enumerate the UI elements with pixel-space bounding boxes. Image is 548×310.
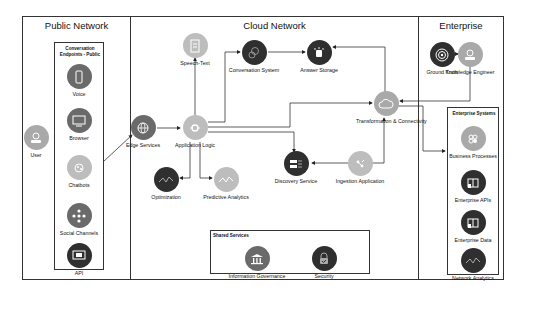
answer-storage-label: Answer Storage [289, 67, 349, 73]
enterprise-apis-node[interactable]: Enterprise APIs [443, 170, 503, 203]
api-node[interactable]: API [49, 243, 109, 276]
conversation-system-node[interactable]: Conversation System [224, 40, 284, 73]
analytics-icon [461, 248, 486, 273]
security-label: Security [294, 273, 354, 279]
network-analytics-label: Network Analytics [443, 275, 503, 281]
speech-text-node[interactable]: Speech-Text [165, 33, 225, 66]
api-icon [67, 243, 92, 268]
optimization-node[interactable]: Optimization [136, 167, 196, 200]
user-icon [24, 125, 49, 150]
user-icon [458, 42, 483, 67]
knowledge-engineer-label: Knowledge Engineer [440, 69, 500, 75]
application-logic-node[interactable]: Application Logic [165, 115, 225, 148]
browser-node[interactable]: Browser [49, 108, 109, 141]
browser-label: Browser [49, 135, 109, 141]
chatbots-label: Chatbots [49, 182, 109, 188]
search-icon [284, 151, 309, 176]
process-icon [461, 126, 486, 151]
conversation-icon [242, 40, 267, 65]
ingestion-application-node[interactable]: Ingestion Application [330, 151, 390, 184]
network-icon [67, 203, 92, 228]
information-governance-node[interactable]: Information Governance [227, 246, 287, 279]
enterprise-apis-label: Enterprise APIs [443, 197, 503, 203]
business-processes-node[interactable]: Business Processes [443, 126, 503, 159]
analytics-icon [214, 167, 239, 192]
conversation-system-label: Conversation System [224, 67, 284, 73]
application-logic-label: Application Logic [165, 142, 225, 148]
enterprise-data-node[interactable]: Enterprise Data [443, 210, 503, 243]
discovery-service-node[interactable]: Discovery Service [266, 151, 326, 184]
discovery-service-label: Discovery Service [266, 178, 326, 184]
answer-storage-node[interactable]: Answer Storage [289, 40, 349, 73]
gear-icon [183, 115, 208, 140]
voice-node[interactable]: Voice [49, 64, 109, 97]
transformation-connectivity-label: Transformation & Connectivity [356, 118, 416, 124]
transformation-connectivity-node[interactable]: Transformation & Connectivity [356, 91, 416, 124]
network-analytics-node[interactable]: Network Analytics [443, 248, 503, 281]
chatbots-node[interactable]: Chatbots [49, 155, 109, 188]
edge-services-label: Edge Services [113, 142, 173, 148]
document-icon [183, 33, 208, 58]
edge-services-node[interactable]: Edge Services [113, 115, 173, 148]
social-channels-label: Social Channels [49, 230, 109, 236]
enterprise-data-label: Enterprise Data [443, 237, 503, 243]
optimization-label: Optimization [136, 194, 196, 200]
information-governance-label: Information Governance [227, 273, 287, 279]
security-node[interactable]: Security [294, 246, 354, 279]
knowledge-engineer-node[interactable]: Knowledge Engineer [440, 42, 500, 75]
data-icon [461, 210, 486, 235]
cloud-icon [374, 91, 399, 116]
voice-label: Voice [49, 91, 109, 97]
predictive-analytics-node[interactable]: Predictive Analytics [196, 167, 256, 200]
business-processes-label: Business Processes [443, 153, 503, 159]
speech-text-label: Speech-Text [165, 60, 225, 66]
database-icon [307, 40, 332, 65]
predictive-analytics-label: Predictive Analytics [196, 194, 256, 200]
ingest-icon [348, 151, 373, 176]
ingestion-application-label: Ingestion Application [330, 178, 390, 184]
social-channels-node[interactable]: Social Channels [49, 203, 109, 236]
analytics-icon [154, 167, 179, 192]
api-book-icon [461, 170, 486, 195]
lock-icon [312, 246, 337, 271]
chatbot-icon [67, 155, 92, 180]
api-label: API [49, 270, 109, 276]
phone-icon [67, 64, 92, 89]
building-icon [245, 246, 270, 271]
monitor-icon [67, 108, 92, 133]
globe-icon [131, 115, 156, 140]
